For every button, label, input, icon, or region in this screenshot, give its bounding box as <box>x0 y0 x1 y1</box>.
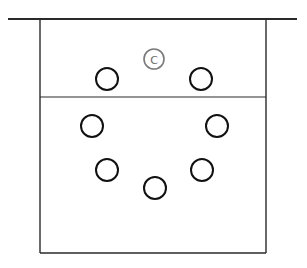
player-marker-p3 <box>81 115 103 137</box>
player-marker-p2 <box>190 68 212 90</box>
player-marker-p6 <box>191 159 213 181</box>
court-diagram: C <box>0 0 307 268</box>
player-marker-p4 <box>206 115 228 137</box>
players-group <box>81 68 228 199</box>
player-marker-p5 <box>96 159 118 181</box>
player-marker-p7 <box>144 177 166 199</box>
coach-label: C <box>150 54 158 67</box>
player-marker-p1 <box>96 68 118 90</box>
coach-marker: C <box>144 49 164 69</box>
